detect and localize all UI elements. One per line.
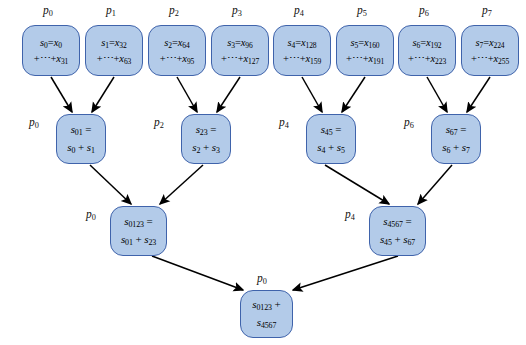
leaf-expression-line1: s4=x128 [287, 37, 316, 48]
edge-n1-m01 [92, 77, 114, 112]
sum-expression-line1: s01 = [71, 124, 92, 136]
sum-expression-line1: s67 = [446, 124, 467, 136]
process-label-level1-p6: p6 [404, 116, 414, 128]
sum-node-s67[interactable]: s67 = s6 + s7 [431, 114, 481, 164]
edge-m67-b4567 [418, 165, 452, 204]
leaf-expression-line1: s0=x0 [40, 37, 62, 48]
leaf-expression-line2: +⋯+x159 [283, 53, 321, 64]
edge-m45-b4567 [325, 165, 389, 204]
leaf-node-s2[interactable]: s2=x64 +⋯+x95 [148, 25, 206, 76]
leaf-expression-line1: s5=x160 [350, 37, 379, 48]
sum-expression-line1: s0123 = [124, 216, 152, 228]
process-label-level1-p4: p4 [279, 116, 289, 128]
leaf-node-s1[interactable]: s1=x32 +⋯+x63 [85, 25, 143, 76]
process-label-p1: p1 [106, 4, 116, 16]
process-label-level1-p2: p2 [154, 116, 164, 128]
root-node-total[interactable]: s0123 + s4567 [240, 290, 293, 338]
sum-node-s01[interactable]: s01 = s0 + s1 [56, 114, 106, 164]
leaf-expression-line2: +⋯+x95 [160, 53, 194, 64]
process-label-p3: p3 [232, 4, 242, 16]
process-label-p4: p4 [294, 4, 304, 16]
leaf-expression-line2: +⋯+x63 [97, 53, 131, 64]
leaf-node-s5[interactable]: s5=x160 +⋯+x191 [336, 25, 394, 76]
leaf-node-s7[interactable]: s7=x224 +⋯+x255 [461, 25, 519, 76]
leaf-node-s0[interactable]: s0=x0 +⋯+x31 [22, 25, 80, 76]
process-label-p5: p5 [357, 4, 367, 16]
process-label-root-p0: p0 [257, 272, 267, 284]
root-expression-line1: s0123 + [252, 299, 280, 311]
sum-node-s23[interactable]: s23 = s2 + s3 [181, 114, 231, 164]
edge-m23-b0123 [160, 165, 203, 204]
leaf-node-s4[interactable]: s4=x128 +⋯+x159 [273, 25, 331, 76]
process-label-p7: p7 [482, 4, 492, 16]
leaf-expression-line2: +⋯+x31 [34, 53, 68, 64]
process-label-p2: p2 [169, 4, 179, 16]
leaf-node-s6[interactable]: s6=x192 +⋯+x223 [398, 25, 456, 76]
edge-n7-m67 [467, 77, 490, 112]
sum-expression-line1: s45 = [321, 124, 342, 136]
leaf-expression-line2: +⋯+x127 [221, 53, 259, 64]
process-label-p6: p6 [419, 4, 429, 16]
sum-expression-line2: s2 + s3 [192, 142, 220, 154]
process-label-level2-p4: p4 [345, 208, 355, 220]
edge-b4567-root [293, 256, 398, 290]
root-expression-line2: s4567 [257, 317, 277, 329]
leaf-expression-line2: +⋯+x255 [471, 53, 509, 64]
edge-b0123-root [152, 256, 243, 290]
leaf-expression-line1: s2=x64 [164, 37, 189, 48]
leaf-expression-line1: s6=x192 [412, 37, 441, 48]
leaf-expression-line2: +⋯+x191 [346, 53, 384, 64]
leaf-node-s3[interactable]: s3=x96 +⋯+x127 [211, 25, 269, 76]
sum-expression-line1: s4567 = [383, 216, 411, 228]
sum-node-s45[interactable]: s45 = s4 + s5 [306, 114, 356, 164]
sum-expression-line2: s4 + s5 [317, 142, 345, 154]
edge-m01-b0123 [90, 165, 131, 204]
leaf-expression-line1: s3=x96 [227, 37, 252, 48]
edge-n0-m01 [51, 77, 72, 112]
edge-n4-m45 [302, 77, 322, 112]
sum-expression-line2: s01 + s23 [121, 234, 156, 246]
sum-node-s4567[interactable]: s4567 = s45 + s67 [369, 206, 426, 256]
sum-node-s0123[interactable]: s0123 = s01 + s23 [110, 206, 167, 256]
leaf-expression-line1: s1=x32 [101, 37, 126, 48]
process-label-level1-p0: p0 [29, 116, 39, 128]
edge-n2-m23 [177, 77, 197, 112]
edge-n5-m45 [342, 77, 365, 112]
sum-expression-line2: s0 + s1 [67, 142, 95, 154]
sum-expression-line1: s23 = [196, 124, 217, 136]
leaf-expression-line2: +⋯+x223 [408, 53, 446, 64]
leaf-expression-line1: s7=x224 [475, 37, 504, 48]
edge-n6-m67 [427, 77, 447, 112]
edge-n3-m23 [217, 77, 240, 112]
sum-expression-line2: s6 + s7 [442, 142, 470, 154]
diagram-canvas: p0 p1 p2 p3 p4 p5 p6 p7 s0=x0 +⋯+x31 s1=… [0, 0, 526, 345]
process-label-level2-p0: p0 [86, 208, 96, 220]
process-label-p0: p0 [43, 4, 53, 16]
sum-expression-line2: s45 + s67 [380, 234, 415, 246]
